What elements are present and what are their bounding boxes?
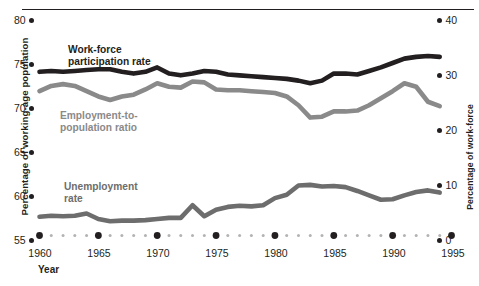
x-axis-major-dot [272,232,279,239]
x-axis-major-dot [95,232,102,239]
x-axis-minor-dot [167,234,170,237]
x-axis-minor-dot [297,234,300,237]
x-axis-minor-dot [238,234,241,237]
x-axis-minor-dot [309,234,312,237]
x-axis-minor-dot [356,234,359,237]
x-axis-minor-dot [50,234,53,237]
x-axis-minor-dot [179,234,182,237]
x-axis-minor-dot [403,234,406,237]
x-axis-major-dot [389,232,396,239]
x-axis-baseline-dots [36,232,455,239]
x-axis-minor-dot [73,234,76,237]
x-axis-minor-dot [379,234,382,237]
x-axis-minor-dot [226,234,229,237]
x-axis-minor-dot [62,234,65,237]
x-axis-minor-dot [262,234,265,237]
x-axis-minor-dot [426,234,429,237]
chart-figure: Percentage of working-age population Per… [0,0,479,286]
x-axis-minor-dot [415,234,418,237]
x-axis-minor-dot [321,234,324,237]
x-axis-minor-dot [109,234,112,237]
x-axis-minor-dot [203,234,206,237]
x-axis-minor-dot [368,234,371,237]
x-axis-major-dot [213,232,220,239]
x-axis-major-dot [330,232,337,239]
x-axis-minor-dot [120,234,123,237]
x-axis-minor-dot [250,234,253,237]
series-line-unemployment [40,185,440,221]
x-axis-minor-dot [344,234,347,237]
x-axis-minor-dot [191,234,194,237]
x-axis-major-dot [36,232,43,239]
x-axis-minor-dot [132,234,135,237]
x-axis-minor-dot [144,234,147,237]
x-axis-minor-dot [285,234,288,237]
plot-area [0,0,479,286]
x-axis-major-dot [448,232,455,239]
x-axis-minor-dot [85,234,88,237]
series-line-employment-population [40,82,440,118]
x-axis-minor-dot [438,234,441,237]
x-axis-major-dot [154,232,161,239]
series-line-workforce-participation [40,56,440,83]
